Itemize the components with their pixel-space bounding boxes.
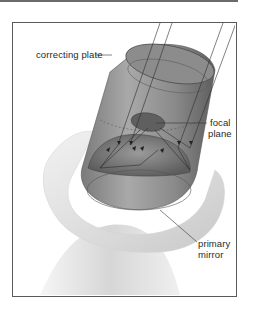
label-focal-plane-1: focal — [210, 117, 231, 128]
label-primary-mirror-2: mirror — [198, 249, 223, 260]
label-correcting-plate: correcting plate — [36, 49, 103, 60]
label-focal-plane-2: plane — [208, 128, 232, 139]
telescope-illustration — [0, 0, 253, 314]
label-primary-mirror-1: primary — [198, 238, 230, 249]
